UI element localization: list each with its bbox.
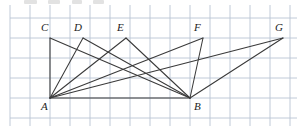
vertex-label-a: A xyxy=(41,101,48,112)
figure-segments xyxy=(50,38,283,98)
segment-CB xyxy=(50,38,190,98)
vertex-label-b: B xyxy=(194,101,201,112)
segment-FB xyxy=(190,38,203,98)
vertex-label-e: E xyxy=(117,22,124,33)
segment-EA xyxy=(50,38,126,98)
grid-lines xyxy=(10,5,297,126)
segment-GA xyxy=(50,38,283,98)
segment-DA xyxy=(50,38,83,98)
vertex-label-f: F xyxy=(194,22,201,33)
vertex-label-g: G xyxy=(275,22,283,33)
figure-stage: ABCDEFG xyxy=(0,0,307,129)
segment-DB xyxy=(83,38,190,98)
segment-GB xyxy=(190,38,283,98)
vertex-label-c: C xyxy=(41,22,48,33)
vertex-label-d: D xyxy=(74,22,82,33)
